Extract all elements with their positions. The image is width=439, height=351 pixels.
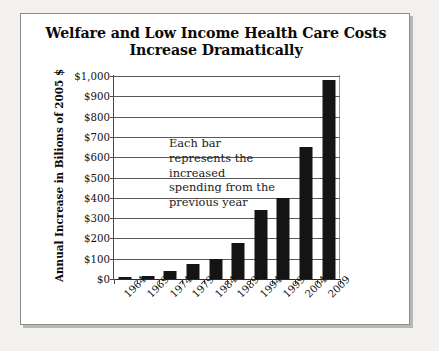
bar-2009[interactable] [322,80,335,279]
y-axis-tick-label: $600 [84,152,110,163]
chart-title: Welfare and Low Income Health Care Costs… [33,25,399,58]
chart-figure: Welfare and Low Income Health Care Costs… [20,13,410,325]
bar-1989[interactable] [232,243,245,279]
bar-1994[interactable] [254,210,267,279]
bar-slot [295,76,318,279]
annotation-line: represents the [169,151,287,166]
annotation-line: spending from the [169,180,287,195]
y-axis-tick-label: $200 [84,233,110,244]
y-axis-tick-label: $0 [97,274,110,285]
bar-slot [317,76,340,279]
chart-annotation-note: Each barrepresents theincreasedspending … [169,136,287,210]
y-axis-tick-label: $400 [84,192,110,203]
annotation-line: increased [169,166,287,181]
scanned-page-background: Welfare and Low Income Health Care Costs… [0,0,439,351]
bar-2004[interactable] [300,147,313,279]
bar-slot [114,76,137,279]
y-axis-title: Annual Increase in Bilions of 2005 $ [53,72,65,282]
y-axis-tick-label: $100 [84,253,110,264]
x-axis-labels-group: 1964196919741979198419891994199920042009 [114,284,354,328]
y-axis-tick-label: $700 [84,131,110,142]
annotation-line: Each bar [169,136,287,151]
chart-title-line-2: Increase Dramatically [33,42,399,59]
bar-1999[interactable] [277,198,290,279]
y-axis-tick-label: $500 [84,172,110,183]
bar-slot [137,76,160,279]
chart-title-line-1: Welfare and Low Income Health Care Costs [46,25,387,41]
y-axis-tick-label: $900 [84,91,110,102]
y-axis-tick-label: $1,000 [74,71,110,82]
y-axis-tick-label: $800 [84,111,110,122]
annotation-line: previous year [169,195,287,210]
y-axis-tick-label: $300 [84,213,110,224]
